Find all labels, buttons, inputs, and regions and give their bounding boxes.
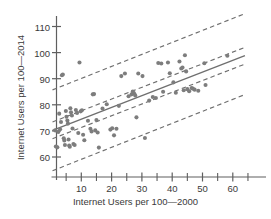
data-point: [96, 130, 100, 134]
data-point: [100, 106, 104, 110]
data-point: [140, 74, 144, 78]
x-tick-label: 10: [76, 183, 87, 194]
data-point: [196, 89, 200, 93]
data-point: [117, 104, 121, 108]
data-point: [143, 136, 147, 140]
x-tick-label: 40: [167, 183, 178, 194]
data-point: [94, 118, 98, 122]
data-point: [97, 146, 101, 150]
data-point: [203, 83, 207, 87]
data-point: [59, 120, 63, 124]
data-point: [136, 71, 140, 75]
data-point: [68, 145, 72, 149]
data-point: [86, 119, 90, 123]
data-point: [63, 143, 67, 147]
data-point: [184, 69, 188, 73]
data-point: [66, 122, 70, 126]
x-tick-label: 50: [197, 183, 208, 194]
data-point: [133, 93, 137, 97]
data-point: [70, 127, 74, 131]
data-point: [123, 71, 127, 75]
data-point: [177, 59, 181, 63]
data-point: [67, 137, 71, 141]
data-point: [92, 92, 96, 96]
y-axis-title: Internet Users per 100—2014: [15, 18, 26, 178]
data-point: [58, 127, 62, 131]
data-point: [183, 53, 187, 57]
data-point: [112, 133, 116, 137]
data-point: [174, 91, 178, 95]
data-point: [62, 139, 66, 143]
data-point: [182, 88, 186, 92]
data-point: [70, 113, 74, 117]
scatter-chart: 102030405060 60708090100110 Internet Use…: [0, 0, 271, 219]
x-tick-label: 20: [106, 183, 117, 194]
regression-line: [53, 56, 245, 131]
data-point: [110, 126, 114, 130]
data-point: [57, 112, 61, 116]
data-point: [168, 71, 172, 75]
data-point: [55, 145, 59, 149]
data-point: [225, 54, 229, 58]
data-point: [159, 62, 163, 66]
data-point: [90, 129, 94, 133]
x-axis-title: Internet Users per 100—2000: [0, 196, 271, 207]
data-point: [105, 102, 109, 106]
data-point: [154, 96, 158, 100]
x-tick-label: 60: [228, 183, 239, 194]
data-point: [147, 99, 151, 103]
data-point: [73, 143, 77, 147]
data-point: [75, 111, 79, 115]
data-point: [64, 109, 68, 113]
data-point: [166, 60, 170, 64]
data-point: [134, 115, 138, 119]
data-point: [68, 106, 72, 110]
data-point: [119, 74, 123, 78]
data-point: [76, 131, 80, 135]
data-point: [80, 108, 84, 112]
data-point: [82, 138, 86, 142]
data-point: [61, 72, 65, 76]
data-point: [202, 61, 206, 65]
data-point: [171, 80, 175, 84]
interval-bands-group: [53, 14, 245, 171]
data-point: [180, 65, 184, 69]
data-point: [161, 90, 165, 94]
data-point: [114, 127, 118, 131]
data-point: [77, 60, 81, 64]
data-point: [64, 115, 68, 119]
data-point: [193, 88, 197, 92]
data-point: [81, 133, 85, 137]
x-tick-label: 30: [137, 183, 148, 194]
